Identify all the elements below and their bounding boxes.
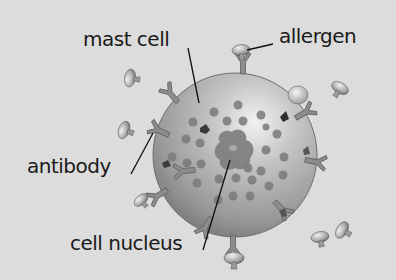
allergen-leader bbox=[247, 44, 273, 50]
antibody-label: antibody bbox=[27, 156, 111, 176]
mast-cell-diagram: mast cell allergen antibody cell nucleus bbox=[0, 0, 396, 280]
mast-cell-label: mast cell bbox=[83, 29, 169, 49]
antibody-leader bbox=[131, 133, 153, 174]
cell-nucleus-label: cell nucleus bbox=[70, 233, 182, 253]
allergen-label: allergen bbox=[279, 26, 356, 46]
